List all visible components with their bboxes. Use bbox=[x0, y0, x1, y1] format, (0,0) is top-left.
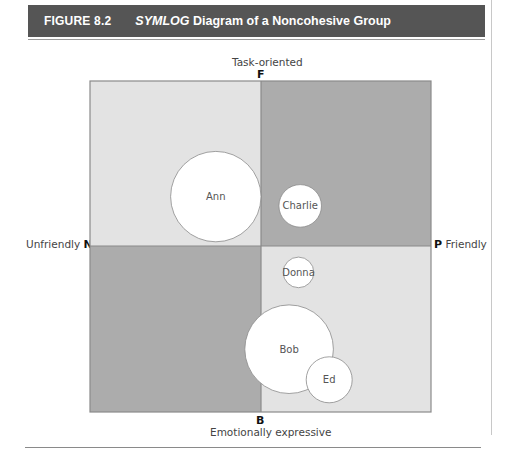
member-label: Ann bbox=[206, 191, 226, 202]
member-label: Charlie bbox=[283, 200, 318, 211]
member-ann: Ann bbox=[171, 151, 261, 241]
member-ed: Ed bbox=[306, 357, 352, 403]
member-label: Ed bbox=[323, 374, 336, 385]
member-donna: Donna bbox=[282, 257, 315, 288]
member-label: Donna bbox=[282, 267, 315, 278]
symlog-diagram: AnnCharlieDonnaBobEd bbox=[0, 0, 510, 460]
quadrant-nb bbox=[90, 246, 261, 412]
member-label: Bob bbox=[279, 344, 298, 355]
member-charlie: Charlie bbox=[279, 185, 322, 228]
